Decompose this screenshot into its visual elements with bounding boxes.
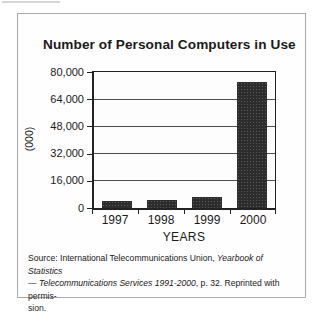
y-axis-labels: 016,00032,00048,00064,00080,000	[36, 72, 84, 208]
y-axis-tick-label: 80,000	[50, 66, 84, 79]
y-axis-tick-label: 16,000	[50, 174, 84, 187]
chart-title: Number of Personal Computers in Use	[43, 37, 293, 52]
bar-1998	[147, 200, 177, 209]
y-axis-tick-label: 32,000	[50, 147, 84, 160]
scanned-figure-page: Number of Personal Computers in Use 016,…	[0, 0, 322, 315]
x-axis-labels: 1997199819992000	[92, 213, 276, 227]
scan-artifact	[2, 1, 60, 3]
source-text: Source: International Telecommunications…	[28, 253, 217, 263]
bar-2000	[237, 82, 267, 208]
figure-box: Number of Personal Computers in Use 016,…	[17, 13, 306, 298]
source-note: Source: International Telecommunications…	[28, 252, 298, 315]
bar-1999	[192, 197, 222, 208]
source-text: sion.	[28, 303, 46, 313]
x-axis-tick-label: 2000	[230, 213, 276, 227]
source-citation-italic: — Telecommunications Services 1991-2000	[28, 278, 196, 288]
x-axis-tick-label: 1998	[138, 213, 184, 227]
x-axis-tick-label: 1999	[184, 213, 230, 227]
source-note-line: sion.	[28, 302, 298, 315]
y-axis-tick-label: 0	[78, 202, 84, 215]
y-axis-tick-label: 48,000	[50, 120, 84, 133]
y-axis-unit-label: (000)	[23, 123, 37, 155]
plot-area	[92, 71, 276, 210]
y-axis-tick-label: 64,000	[50, 93, 84, 106]
x-axis-tick-label: 1997	[92, 213, 138, 227]
source-note-line: Source: International Telecommunications…	[28, 252, 298, 277]
x-axis-title: YEARS	[92, 230, 276, 244]
source-note-line: — Telecommunications Services 1991-2000,…	[28, 277, 298, 302]
bar-1997	[102, 201, 132, 208]
